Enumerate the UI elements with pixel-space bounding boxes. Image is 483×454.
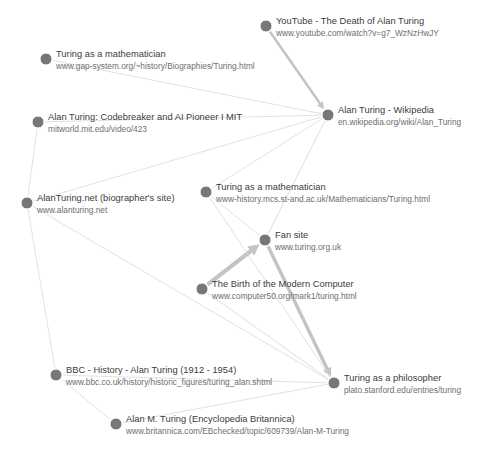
node-title: Turing as a mathematician	[56, 49, 255, 61]
node-title: Alan Turing - Wikipedia	[338, 105, 461, 117]
node-url[interactable]: mitworld.mit.edu/video/423	[48, 124, 242, 135]
node-title: BBC - History - Alan Turing (1912 - 1954…	[66, 365, 272, 377]
node-url[interactable]: www.youtube.com/watch?v=g7_WzNzHwJY	[276, 28, 439, 39]
node-label-group: Alan M. Turing (Encyclopedia Britannica)…	[126, 414, 349, 437]
node-label-group: Fan sitewww.turing.org.uk	[275, 230, 341, 253]
node-url[interactable]: www.computer50.org/mark1/turing.html	[212, 291, 357, 302]
node-url[interactable]: www.gap-system.org/~history/Biographies/…	[56, 61, 255, 72]
node-title: Alan Turing: Codebreaker and AI Pioneer …	[48, 112, 242, 124]
node-label-group: AlanTuring.net (biographer's site)www.al…	[37, 193, 175, 216]
node-label-group: Turing as a philosopherplato.stanford.ed…	[344, 373, 461, 396]
node-dot-icon[interactable]	[110, 418, 123, 431]
node-title: The Birth of the Modern Computer	[212, 279, 357, 291]
node-label-group: BBC - History - Alan Turing (1912 - 1954…	[66, 365, 272, 388]
node-label-group: Alan Turing - Wikipediaen.wikipedia.org/…	[338, 105, 461, 128]
node-dot-icon[interactable]	[259, 234, 272, 247]
node-url[interactable]: www.alanturing.net	[37, 205, 175, 216]
node-dot-icon[interactable]	[322, 109, 335, 122]
node-url[interactable]: www.bbc.co.uk/history/historic_figures/t…	[66, 377, 272, 388]
node-label-group: Alan Turing: Codebreaker and AI Pioneer …	[48, 112, 242, 135]
node-dot-icon[interactable]	[196, 283, 209, 296]
node-dot-icon[interactable]	[50, 369, 63, 382]
node-label-group: Turing as a mathematicianwww.gap-system.…	[56, 49, 255, 72]
node-dot-icon[interactable]	[260, 20, 273, 33]
node-dot-icon[interactable]	[21, 197, 34, 210]
node-url[interactable]: en.wikipedia.org/wiki/Alan_Turing	[338, 117, 461, 128]
node-dot-icon[interactable]	[40, 53, 53, 66]
node-dot-icon[interactable]	[200, 186, 213, 199]
node-url[interactable]: www.turing.org.uk	[275, 242, 341, 253]
node-layer: YouTube - The Death of Alan Turingwww.yo…	[0, 0, 483, 454]
node-title: Turing as a philosopher	[344, 373, 461, 385]
node-url[interactable]: www-history.mcs.st-and.ac.uk/Mathematici…	[216, 194, 430, 205]
network-graph: YouTube - The Death of Alan Turingwww.yo…	[0, 0, 483, 454]
node-url[interactable]: plato.stanford.edu/entries/turing	[344, 385, 461, 396]
node-label-group: Turing as a mathematicianwww-history.mcs…	[216, 182, 430, 205]
node-title: YouTube - The Death of Alan Turing	[276, 16, 439, 28]
node-label-group: YouTube - The Death of Alan Turingwww.yo…	[276, 16, 439, 39]
node-title: Turing as a mathematician	[216, 182, 430, 194]
node-title: AlanTuring.net (biographer's site)	[37, 193, 175, 205]
node-label-group: The Birth of the Modern Computerwww.comp…	[212, 279, 357, 302]
node-title: Fan site	[275, 230, 341, 242]
node-url[interactable]: www.britannica.com/EBchecked/topic/60973…	[126, 426, 349, 437]
node-dot-icon[interactable]	[32, 116, 45, 129]
node-dot-icon[interactable]	[328, 377, 341, 390]
node-title: Alan M. Turing (Encyclopedia Britannica)	[126, 414, 349, 426]
figure-caption	[0, 444, 483, 453]
